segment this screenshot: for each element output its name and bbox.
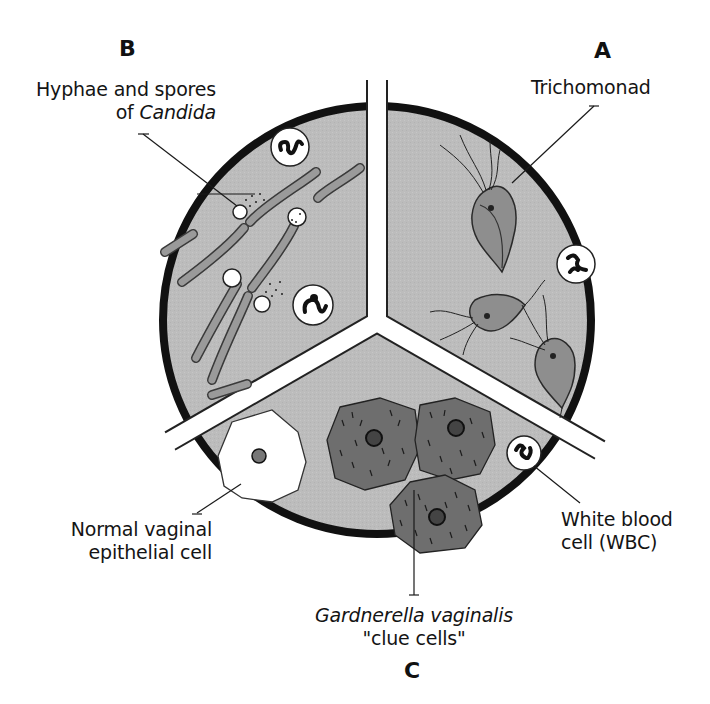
diagram-stage: B A C Hyphae and spores of Candida Trich… — [0, 0, 710, 704]
clue-cell-2 — [415, 398, 495, 480]
section-letter-c: C — [404, 658, 420, 683]
label-candida-line2: of Candida — [20, 101, 216, 124]
label-candida-prefix: of — [116, 101, 140, 123]
label-candida-italic: Candida — [139, 101, 216, 123]
leader-trichomonad — [512, 106, 594, 183]
section-letter-b: B — [119, 36, 136, 61]
label-clue-cells-line2: "clue cells" — [290, 627, 538, 650]
leader-wbc — [534, 466, 580, 503]
label-clue-cells: Gardnerella vaginalis "clue cells" — [290, 604, 538, 650]
label-candida: Hyphae and spores of Candida — [20, 78, 216, 124]
wbc-a — [557, 245, 595, 283]
label-wbc-line2: cell (WBC) — [561, 531, 673, 554]
label-epithelial-line1: Normal vaginal — [30, 518, 212, 541]
section-letter-a: A — [594, 38, 611, 63]
wbc-c — [507, 436, 541, 470]
label-trichomonad: Trichomonad — [531, 76, 651, 99]
label-clue-cells-italic: Gardnerella vaginalis — [290, 604, 538, 627]
wbc-b-top — [271, 128, 309, 166]
label-wbc: White blood cell (WBC) — [561, 508, 673, 554]
label-epithelial-cell: Normal vaginal epithelial cell — [30, 518, 212, 564]
label-wbc-line1: White blood — [561, 508, 673, 531]
label-epithelial-line2: epithelial cell — [30, 541, 212, 564]
clue-cell-1 — [327, 398, 420, 490]
wbc-b-bottom — [293, 285, 333, 325]
label-candida-line1: Hyphae and spores — [20, 78, 216, 101]
